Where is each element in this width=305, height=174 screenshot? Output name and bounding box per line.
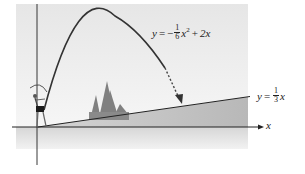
x-axis-label: x (266, 119, 271, 131)
eq2-fraction: 1 3 (273, 87, 279, 104)
eq1-exponent: 2 (186, 26, 190, 34)
diagram-figure: y = − 1 6 x 2 + 2x y = 1 3 x x (0, 0, 305, 174)
eq1-lhs: y (152, 27, 157, 39)
eq1-term2: 2x (200, 27, 210, 39)
eq1-sign: − (167, 27, 173, 39)
eq1-frac-den: 6 (175, 33, 179, 41)
ground-region (16, 127, 248, 149)
eq1-equals: = (159, 27, 165, 39)
parabola-equation-label: y = − 1 6 x 2 + 2x (152, 24, 210, 41)
x-axis-arrow-icon (258, 125, 264, 130)
eq1-fraction: 1 6 (174, 24, 180, 41)
line-equation-label: y = 1 3 x (257, 87, 285, 104)
eq2-equals: = (264, 90, 270, 102)
eq2-lhs: y (257, 90, 262, 102)
eq1-plus: + (192, 27, 198, 39)
eq2-term: x (280, 90, 285, 102)
eq2-frac-den: 3 (274, 96, 278, 104)
